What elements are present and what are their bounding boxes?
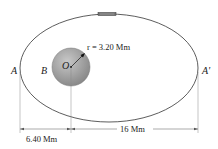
orbit-diagram: A B O A' r = 3.20 Mm 6.40 Mm 16 Mm xyxy=(0,0,218,149)
label-b: B xyxy=(41,65,47,76)
label-a-prime: A' xyxy=(201,65,211,76)
label-dim-left: 6.40 Mm xyxy=(26,134,58,144)
satellite-icon xyxy=(98,13,116,16)
label-a: A xyxy=(10,65,18,76)
dimension-left xyxy=(20,128,71,130)
label-radius: r = 3.20 Mm xyxy=(87,42,130,52)
label-dim-right: 16 Mm xyxy=(120,124,145,134)
center-point xyxy=(70,66,72,68)
label-o: O xyxy=(62,60,69,71)
